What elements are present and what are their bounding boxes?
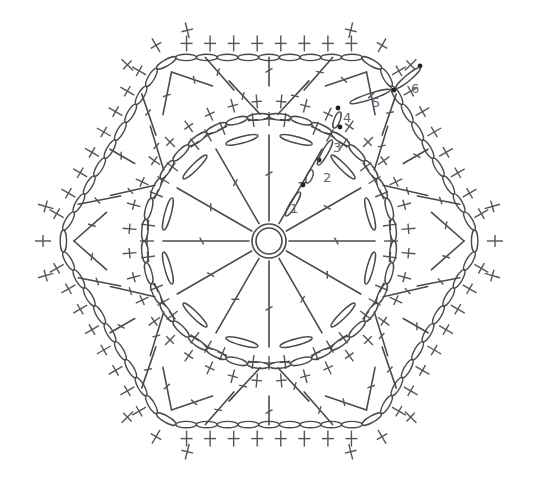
dc-stitch [110, 149, 135, 163]
chain-stitch [61, 210, 77, 231]
dc-stitch [171, 396, 212, 410]
chain-stitch [269, 113, 291, 121]
dc-stitch [431, 212, 464, 241]
chain-stitch [290, 355, 313, 367]
chain-stitch [389, 241, 397, 263]
chain-stitch [112, 121, 128, 142]
chain-stitch [430, 304, 446, 325]
dc-stitch [325, 72, 366, 86]
chain-stitch [389, 219, 397, 241]
dc-stitch [325, 396, 366, 410]
round-label-6: 6 [411, 81, 419, 96]
chain-stitch [143, 262, 155, 285]
chain-stitch [225, 355, 248, 367]
chain-stitch [379, 394, 395, 415]
dc-stitch [216, 149, 259, 223]
chain-stitch [329, 301, 357, 329]
chain-stitch [155, 411, 177, 428]
chain-stitch [247, 361, 269, 369]
chain-stitch [225, 335, 259, 350]
chain-stitch [290, 115, 313, 127]
dc-stitch [367, 367, 376, 410]
round-1-double-crochet-spokes [160, 132, 377, 349]
chain-stitch [383, 197, 395, 220]
chain-stitch [225, 115, 248, 127]
chain-stitch [279, 54, 300, 60]
chain-stitch [300, 54, 321, 60]
chain-stitch [342, 54, 363, 60]
chain-stitch [462, 210, 478, 231]
chain-stitch [399, 103, 415, 124]
dc-stitch [279, 258, 322, 332]
chain-stitch [300, 421, 321, 427]
chain-stitch [430, 157, 446, 178]
dc-stitch [163, 72, 172, 115]
round-6-single-crochet-border [35, 23, 503, 460]
dc-stitch [431, 241, 464, 270]
dc-stitch [142, 347, 156, 388]
chain-stitch [92, 157, 108, 178]
chain-stitch [143, 197, 155, 220]
chain-stitch [81, 286, 97, 307]
chain-stitch [123, 358, 139, 379]
chain-stitch [304, 169, 315, 184]
dc-stitch [403, 319, 428, 333]
chain-stitch [410, 121, 426, 142]
chain-stitch [279, 335, 313, 350]
dc-stitch [171, 72, 212, 86]
chain-stitch [141, 219, 149, 241]
chain-stitch [247, 113, 269, 121]
chain-stitch [144, 67, 160, 88]
dc-stitch [383, 185, 427, 195]
chain-stitch [410, 340, 426, 361]
chain-stitch [379, 67, 395, 88]
chain-stitch [181, 153, 209, 181]
chain-stitch [399, 358, 415, 379]
dc-stitch [286, 251, 360, 294]
chain-stitch [123, 103, 139, 124]
chain-stitch [441, 175, 457, 196]
chain-stitch [160, 197, 175, 231]
chain-stitch [342, 421, 363, 427]
chain-stitch [279, 421, 300, 427]
round-number-labels: 123456 [290, 81, 419, 216]
chain-stitch [81, 175, 97, 196]
chain-stitch [217, 54, 238, 60]
chain-stitch [361, 55, 383, 72]
chain-stitch [176, 54, 197, 60]
dc-stitch [216, 258, 259, 332]
dc-stitch [382, 347, 396, 388]
dc-stitch [382, 94, 396, 135]
round-label-2: 2 [323, 170, 331, 185]
chain-stitch [462, 250, 478, 271]
round-label-3: 3 [333, 140, 341, 155]
chain-stitch [361, 411, 383, 428]
round-start-dot [336, 106, 341, 111]
chain-stitch [92, 304, 108, 325]
chain-stitch [176, 421, 197, 427]
chain-stitch [441, 286, 457, 307]
dc-stitch [110, 319, 135, 333]
chain-stitch [225, 132, 259, 147]
chain-stitch [217, 421, 238, 427]
dc-stitch [74, 241, 107, 270]
center-magic-ring [252, 224, 286, 258]
chain-stitch [471, 230, 477, 252]
round-label-5: 5 [372, 95, 380, 110]
chain-stitch [133, 376, 149, 397]
chain-stitch [160, 251, 175, 285]
chain-stitch [279, 132, 313, 147]
chain-stitch [60, 230, 66, 252]
chain-stitch [112, 340, 128, 361]
round-label-1: 1 [290, 201, 298, 216]
chain-stitch [133, 85, 149, 106]
chain-stitch [363, 251, 378, 285]
dc-stitch [110, 286, 154, 296]
chain-stitch [181, 301, 209, 329]
chain-stitch [389, 376, 405, 397]
chain-stitch [363, 197, 378, 231]
dc-stitch [142, 94, 156, 135]
dc-stitch [177, 188, 251, 231]
chain-stitch [315, 139, 334, 167]
chain-stitch [238, 421, 259, 427]
